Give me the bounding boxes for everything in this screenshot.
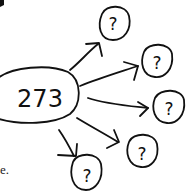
center-node: 273 xyxy=(0,67,79,123)
text-fragment-2: e. xyxy=(0,162,9,177)
partial-mark xyxy=(0,0,4,7)
diagram-canvas: 273 ? ? ? ? ? xyxy=(0,0,187,192)
unknown-node-label: ? xyxy=(108,14,117,34)
arrowhead-3-icon xyxy=(138,102,148,116)
unknown-node-3: ? xyxy=(153,91,184,123)
unknown-node-5: ? xyxy=(71,155,101,190)
unknown-node-2: ? xyxy=(142,45,172,77)
unknown-node-label: ? xyxy=(82,166,91,186)
unknown-node-4: ? xyxy=(127,135,157,167)
arrow-2 xyxy=(80,66,138,86)
center-node-label: 273 xyxy=(17,85,63,113)
arrow-5 xyxy=(59,130,74,156)
unknown-node-label: ? xyxy=(152,53,161,73)
arrowhead-1-icon xyxy=(86,43,102,56)
arrow-4 xyxy=(77,118,118,142)
arrowhead-5-icon xyxy=(58,144,77,156)
arrows xyxy=(58,43,148,156)
unknown-node-label: ? xyxy=(164,99,173,119)
unknown-node-1: ? xyxy=(100,7,130,40)
arrow-1 xyxy=(70,44,98,70)
arrowhead-2-icon xyxy=(124,62,138,80)
unknown-node-label: ? xyxy=(137,144,146,164)
